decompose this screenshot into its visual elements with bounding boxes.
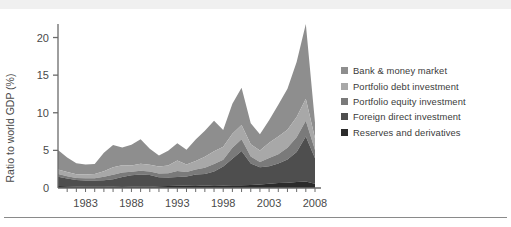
x-tick-label: 1983 <box>73 197 97 208</box>
x-tick-label: 1993 <box>165 197 189 208</box>
legend-swatch-bank-money-market <box>341 67 348 74</box>
chart-legend: Bank & money marketPortfolio debt invest… <box>341 63 509 140</box>
x-tick-label: 1988 <box>119 197 143 208</box>
legend-item-label: Foreign direct investment <box>353 111 461 122</box>
y-tick-label: 10 <box>37 107 49 119</box>
footer-divider-rule <box>4 217 507 218</box>
figure-container: 05101520198319881993199820032008 Ratio t… <box>0 0 511 227</box>
legend-swatch-portfolio-debt <box>341 83 348 90</box>
stacked-area-chart: 05101520198319881993199820032008 Ratio t… <box>0 8 340 208</box>
x-tick-label: 2008 <box>303 197 327 208</box>
legend-item-label: Portfolio equity investment <box>353 96 466 107</box>
legend-item[interactable]: Reserves and derivatives <box>341 125 509 140</box>
y-tick-label: 20 <box>37 32 49 44</box>
legend-item-label: Reserves and derivatives <box>353 127 461 138</box>
chart-plot-area: 05101520198319881993199820032008 Ratio t… <box>0 8 340 208</box>
y-tick-label: 0 <box>43 182 49 194</box>
legend-swatch-reserves-derivatives <box>341 129 348 136</box>
legend-item-label: Portfolio debt investment <box>353 81 459 92</box>
legend-item[interactable]: Foreign direct investment <box>341 109 509 124</box>
y-axis-label: Ratio to world GDP (%) <box>4 74 16 183</box>
legend-swatch-portfolio-equity <box>341 98 348 105</box>
legend-item[interactable]: Bank & money market <box>341 63 509 78</box>
x-tick-label: 1998 <box>211 197 235 208</box>
area-series-group <box>58 24 315 188</box>
x-tick-label: 2003 <box>257 197 281 208</box>
y-tick-label: 15 <box>37 69 49 81</box>
legend-item-label: Bank & money market <box>353 65 447 76</box>
legend-swatch-foreign-direct <box>341 113 348 120</box>
legend-item[interactable]: Portfolio equity investment <box>341 94 509 109</box>
y-tick-label: 5 <box>43 144 49 156</box>
legend-item[interactable]: Portfolio debt investment <box>341 78 509 93</box>
